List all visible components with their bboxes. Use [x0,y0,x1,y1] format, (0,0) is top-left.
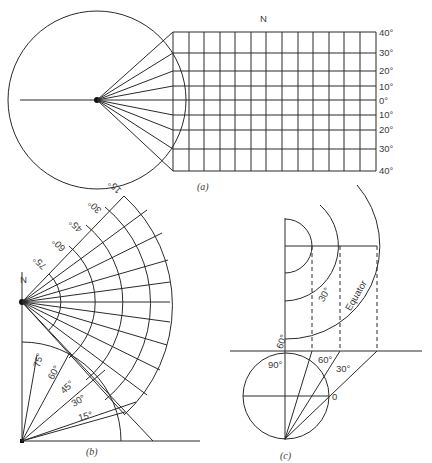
caption-c: (c) [280,450,292,462]
panel-c-azimuthal-projection: 60° 30° Equator 90° 60° 30° 0 (c) [230,185,422,462]
arc-label-60: 60° [274,333,289,350]
svg-text:10°: 10° [379,109,394,120]
svg-text:30°: 30° [85,198,103,216]
latitude-labels-a: 40° 30° 20° 10° 0° 10° 20° 30° 40° [379,27,394,176]
svg-text:40°: 40° [379,165,394,176]
cylindrical-grid [173,32,376,171]
circle-label-90: 90° [268,359,283,370]
svg-text:30°: 30° [379,47,394,58]
svg-text:15°: 15° [105,178,123,196]
caption-b: (b) [86,446,98,458]
panel-a-cylindrical-projection: N 40° 30° 20° 10° 0° 10° 20° 30° 40° (a) [8,11,394,193]
svg-text:20°: 20° [379,124,394,135]
svg-text:40°: 40° [379,27,394,38]
svg-text:75°: 75° [31,351,45,368]
parallel-arcs-c [285,185,380,339]
north-label-b: N [20,275,27,286]
projection-rays [97,32,173,171]
svg-text:30°: 30° [69,392,87,409]
circle-label-0: 0 [332,391,337,402]
svg-text:60°: 60° [49,236,67,254]
svg-text:15°: 15° [77,409,94,423]
upper-fan-labels: 75° 60° 45° 30° 15° [30,178,123,272]
svg-text:45°: 45° [66,217,84,235]
panel-b-conic-projection: N [19,178,200,458]
circle-label-30: 30° [336,363,351,374]
map-projection-diagram: N 40° 30° 20° 10° 0° 10° 20° 30° 40° (a)… [0,0,432,463]
svg-text:60°: 60° [45,363,62,381]
svg-text:30°: 30° [379,143,394,154]
north-label-a: N [260,13,267,24]
svg-text:0°: 0° [379,95,388,106]
svg-text:20°: 20° [379,65,394,76]
caption-a: (a) [197,181,209,193]
svg-text:45°: 45° [58,378,76,396]
upper-fan-meridians [22,196,170,441]
arc-label-equator: Equator [343,278,369,312]
svg-text:10°: 10° [379,81,394,92]
svg-text:75°: 75° [30,254,48,272]
circle-label-60: 60° [318,354,333,365]
